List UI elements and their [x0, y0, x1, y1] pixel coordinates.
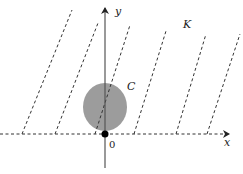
origin-label: 0 [109, 139, 115, 150]
cone-dashed-line [22, 10, 72, 134]
y-axis-label: y [114, 5, 122, 18]
set-c-label: C [127, 80, 136, 93]
cone-dashed-line [176, 34, 206, 134]
origin-dot [102, 131, 109, 138]
cone-dashed-line [134, 31, 166, 134]
x-axis-label: x [224, 136, 231, 149]
diagram-canvas: y x 0 C K [0, 0, 243, 174]
cone-k-dashed-lines [22, 10, 240, 134]
cone-k-label: K [182, 18, 192, 31]
cone-dashed-line [207, 34, 240, 134]
